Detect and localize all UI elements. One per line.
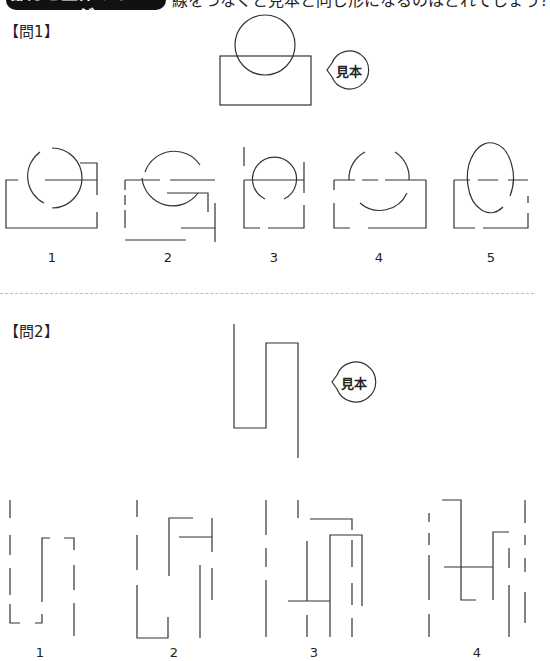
q1-option-3-number[interactable]: 3 xyxy=(270,250,278,265)
q1-option-3-figure xyxy=(244,147,304,228)
q2-option-4-number[interactable]: 4 xyxy=(473,645,481,660)
q2-option-4-figure xyxy=(429,500,525,637)
q1-option-5-number[interactable]: 5 xyxy=(487,250,495,265)
q2-sample-label: 見本 xyxy=(341,373,367,392)
q1-option-1-figure xyxy=(6,148,97,228)
q2-option-3-number[interactable]: 3 xyxy=(310,645,318,660)
q1-sample-figure xyxy=(220,15,311,105)
q1-option-2-number[interactable]: 2 xyxy=(164,250,172,265)
q1-option-4-number[interactable]: 4 xyxy=(375,250,383,265)
q2-option-1-number[interactable]: 1 xyxy=(36,645,44,660)
q2-option-3-figure xyxy=(266,500,362,637)
q1-sample-label: 見本 xyxy=(336,61,362,80)
q1-option-4-figure xyxy=(334,152,426,228)
q2-option-1-figure xyxy=(10,500,74,636)
q1-option-2-figure xyxy=(125,151,215,242)
section-divider xyxy=(0,293,534,294)
q2-option-2-figure xyxy=(137,500,212,638)
q1-option-5-figure xyxy=(454,143,528,228)
q2-option-2-number[interactable]: 2 xyxy=(170,645,178,660)
question-2-label: 【問2】 xyxy=(4,320,59,341)
q1-option-1-number[interactable]: 1 xyxy=(48,250,56,265)
q2-sample-figure xyxy=(234,324,298,458)
